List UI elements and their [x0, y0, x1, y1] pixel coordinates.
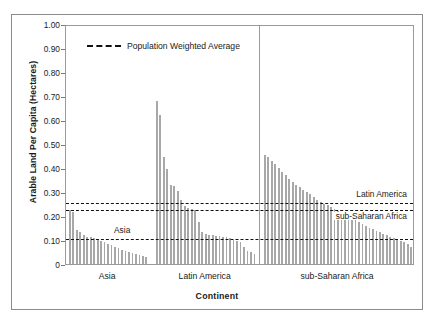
group-divider: [259, 26, 260, 264]
y-tick-mark: [61, 193, 65, 194]
y-tick-label: 0.60: [30, 117, 60, 125]
x-group-label-latin-america: Latin America: [179, 271, 231, 281]
bar: [372, 229, 374, 264]
y-tick-label: 0.30: [30, 189, 60, 197]
y-tick-label: 0.90: [30, 45, 60, 53]
bar: [191, 209, 193, 264]
y-tick-label: 0.20: [30, 213, 60, 221]
y-tick-label: 0.10: [30, 237, 60, 245]
bar: [86, 237, 88, 264]
bar: [362, 224, 364, 264]
bar: [132, 253, 134, 264]
y-tick-label: 1.00: [30, 21, 60, 29]
bar: [93, 238, 95, 264]
y-tick-mark: [61, 25, 65, 26]
y-tick-label: 0.80: [30, 69, 60, 77]
bar: [243, 247, 245, 264]
bar: [219, 236, 221, 264]
bar: [348, 216, 350, 264]
y-tick-label: 0.40: [30, 165, 60, 173]
x-axis-title: Continent: [12, 291, 422, 301]
bar: [159, 115, 161, 264]
legend-dashed-line-icon: [87, 45, 121, 47]
bar: [229, 238, 231, 264]
bar: [125, 251, 127, 264]
bar: [79, 232, 81, 264]
bar: [403, 242, 405, 264]
bar: [222, 237, 224, 264]
bar: [285, 175, 287, 264]
bar: [323, 204, 325, 264]
y-tick-label: 0.70: [30, 93, 60, 101]
bar: [288, 179, 290, 264]
bar: [100, 241, 102, 264]
y-tick-mark: [61, 73, 65, 74]
bar: [271, 161, 273, 264]
bar: [90, 237, 92, 264]
bar: [247, 251, 249, 264]
bar: [355, 220, 357, 264]
bar: [327, 205, 329, 264]
bar: [111, 245, 113, 264]
bar: [145, 257, 147, 264]
bar: [236, 241, 238, 264]
bar: [114, 247, 116, 264]
bar: [194, 210, 196, 264]
bar: [396, 240, 398, 264]
bar: [274, 164, 276, 264]
bar: [142, 256, 144, 264]
y-tick-mark: [61, 97, 65, 98]
bar: [410, 247, 412, 264]
bar: [299, 187, 301, 264]
bar: [292, 182, 294, 264]
bar: [173, 186, 175, 264]
bar: [166, 169, 168, 264]
bar: [278, 168, 280, 264]
bar: [118, 248, 120, 264]
bar: [365, 226, 367, 264]
bar: [128, 252, 130, 264]
average-line-latin-america: [66, 203, 413, 204]
bar: [135, 254, 137, 264]
bar: [379, 232, 381, 264]
y-tick-mark: [61, 145, 65, 146]
bar: [309, 194, 311, 264]
bar: [320, 202, 322, 264]
bar: [233, 240, 235, 264]
bar: [407, 244, 409, 264]
y-tick-mark: [61, 169, 65, 170]
bar: [313, 197, 315, 264]
bar: [69, 210, 71, 264]
bar: [358, 222, 360, 264]
bar: [76, 230, 78, 264]
bar: [201, 232, 203, 264]
bar: [97, 239, 99, 264]
bar: [400, 241, 402, 264]
y-tick-mark: [61, 265, 65, 266]
legend: Population Weighted Average: [84, 40, 243, 52]
bar: [376, 231, 378, 264]
average-line-asia: [66, 239, 413, 240]
annotation-label: sub-Saharan Africa: [334, 212, 409, 221]
bar: [295, 185, 297, 264]
bar: [170, 185, 172, 264]
bar: [198, 222, 200, 264]
bar: [250, 252, 252, 264]
bar: [104, 242, 106, 264]
bar: [254, 254, 256, 264]
bar: [226, 237, 228, 264]
bar: [369, 228, 371, 264]
bar: [139, 255, 141, 264]
bar: [330, 207, 332, 264]
annotation-label: Latin America: [354, 190, 409, 199]
bar: [389, 237, 391, 264]
chart-figure: Arable Land Per Capita (Hectares) 1.000.…: [11, 14, 423, 310]
y-tick-mark: [61, 217, 65, 218]
bar: [163, 157, 165, 264]
bar: [177, 191, 179, 264]
legend-label: Population Weighted Average: [127, 41, 240, 51]
plot-area: Latin Americasub-Saharan AfricaAsia Popu…: [65, 25, 414, 265]
y-tick-label: 0.50: [30, 141, 60, 149]
bar: [302, 190, 304, 264]
bar: [240, 242, 242, 264]
